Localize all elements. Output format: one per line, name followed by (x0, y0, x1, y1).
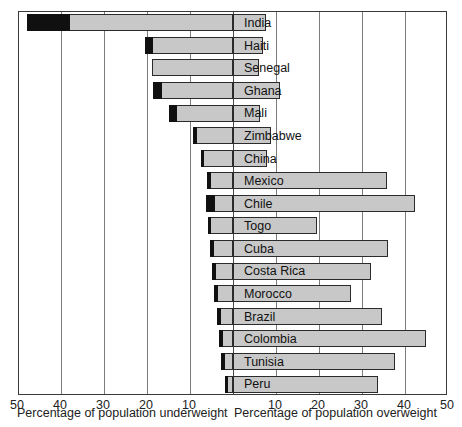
bar-severe-underweight-india (27, 14, 70, 31)
bar-severe-underweight-zimbabwe (193, 127, 197, 144)
bar-severe-underweight-haiti (145, 37, 154, 54)
bar-severe-underweight-china (201, 150, 204, 167)
country-label-brazil: Brazil (240, 309, 275, 325)
chart-row: Brazil (19, 306, 446, 327)
country-label-mexico: Mexico (240, 173, 284, 189)
tick-overweight-50: 50 (440, 398, 454, 412)
chart-row: Tunisia (19, 351, 446, 372)
chart-row: Togo (19, 215, 446, 236)
bar-underweight-togo (208, 217, 233, 234)
country-label-senegal: Senegal (240, 60, 290, 76)
country-label-india: India (240, 15, 271, 31)
chart-row: India (19, 12, 446, 33)
country-label-ghana: Ghana (240, 83, 282, 99)
chart-row: Senegal (19, 57, 446, 78)
bar-severe-underweight-brazil (217, 308, 221, 325)
country-label-haiti: Haiti (240, 38, 269, 54)
chart-row: Chile (19, 193, 446, 214)
bar-underweight-mali (169, 105, 233, 122)
chart-row: Mexico (19, 170, 446, 191)
country-label-costa-rica: Costa Rica (240, 263, 305, 279)
chart-row: Ghana (19, 80, 446, 101)
chart-row: Haiti (19, 35, 446, 56)
bar-underweight-senegal (152, 59, 233, 76)
chart-row: Zimbabwe (19, 125, 446, 146)
axis-label-underweight: Percentage of population underweight (17, 406, 228, 420)
chart-row: Cuba (19, 238, 446, 259)
bar-severe-underweight-ghana (153, 82, 162, 99)
bar-severe-underweight-togo (208, 217, 211, 234)
country-label-togo: Togo (240, 218, 271, 234)
bar-severe-underweight-mali (169, 105, 177, 122)
bar-severe-underweight-peru (225, 376, 228, 393)
country-label-china: China (240, 151, 277, 167)
country-label-zimbabwe: Zimbabwe (240, 128, 302, 144)
bar-severe-underweight-colombia (219, 330, 223, 347)
country-label-colombia: Colombia (240, 331, 297, 347)
country-label-chile: Chile (240, 196, 273, 212)
bar-severe-underweight-tunisia (221, 353, 225, 370)
country-label-mali: Mali (240, 105, 267, 121)
bar-underweight-haiti (145, 37, 233, 54)
bar-underweight-ghana (153, 82, 233, 99)
chart-row: Costa Rica (19, 260, 446, 281)
chart-row: Morocco (19, 283, 446, 304)
bar-underweight-china (201, 150, 233, 167)
country-label-morocco: Morocco (240, 286, 292, 302)
country-label-tunisia: Tunisia (240, 354, 284, 370)
axis-label-overweight: Percentage of population overweight (234, 406, 437, 420)
chart-root: IndiaHaitiSenegalGhanaMaliZimbabweChinaM… (0, 0, 462, 427)
bar-severe-underweight-cuba (210, 240, 214, 257)
country-label-cuba: Cuba (240, 241, 274, 257)
bar-underweight-mexico (207, 172, 233, 189)
bar-severe-underweight-mexico (207, 172, 211, 189)
bar-severe-underweight-morocco (214, 285, 218, 302)
plot-area: IndiaHaitiSenegalGhanaMaliZimbabweChinaM… (18, 11, 447, 395)
bar-severe-underweight-costa-rica (212, 263, 216, 280)
chart-row: Mali (19, 102, 446, 123)
bar-severe-underweight-chile (206, 195, 215, 212)
chart-row: China (19, 148, 446, 169)
chart-row: Peru (19, 373, 446, 394)
country-label-peru: Peru (240, 376, 270, 392)
bar-underweight-zimbabwe (193, 127, 233, 144)
chart-row: Colombia (19, 328, 446, 349)
